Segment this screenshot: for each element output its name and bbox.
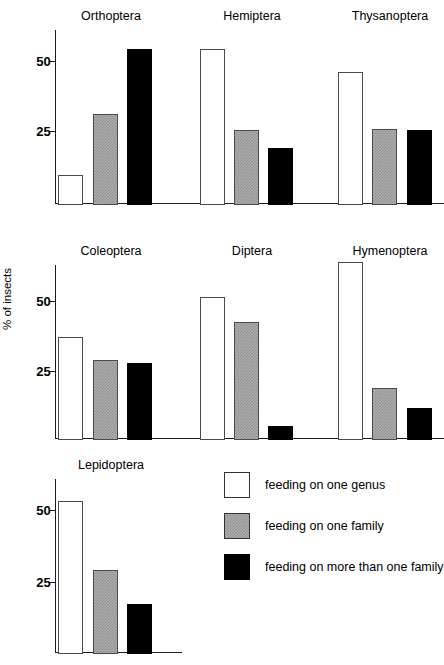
tick-label: 50 [36, 55, 51, 68]
legend-item-one-genus: feeding on one genus [224, 472, 385, 498]
group-title-coleoptera: Coleoptera [80, 245, 141, 258]
bar-hymenoptera-one-family [372, 388, 397, 440]
group-title-hemiptera: Hemiptera [223, 10, 281, 23]
bar-hemiptera-one-family [234, 130, 259, 205]
panel-row-2: 50 25 Coleoptera Diptera Hymenoptera [0, 235, 444, 445]
bar-lepidoptera-one-family [93, 570, 118, 654]
bar-coleoptera-one-genus [58, 337, 83, 440]
bar-thysanoptera-one-genus [338, 72, 363, 205]
bar-thysanoptera-more-than-one-family [407, 130, 432, 205]
bar-hymenoptera-one-genus [338, 262, 363, 440]
legend-label: feeding on one genus [265, 479, 385, 492]
group-title-thysanoptera: Thysanoptera [352, 10, 428, 23]
tick-label: 25 [36, 365, 51, 378]
insect-feeding-specificity-figure: % of insects 50 25 Orthoptera Hemiptera … [0, 0, 444, 665]
bar-hymenoptera-more-than-one-family [407, 408, 432, 440]
plot-area-row-2: 50 25 Coleoptera Diptera Hymenoptera [55, 265, 444, 440]
tick-label: 50 [36, 504, 51, 517]
legend-swatch-gray-icon [224, 513, 250, 539]
plot-area-row-1: 50 25 Orthoptera Hemiptera Thysanoptera [55, 30, 444, 205]
legend-swatch-black-icon [224, 554, 250, 580]
bar-orthoptera-one-genus [58, 175, 83, 205]
legend-item-one-family: feeding on one family [224, 513, 384, 539]
group-title-diptera: Diptera [232, 245, 272, 258]
bar-thysanoptera-one-family [372, 129, 397, 205]
bar-hemiptera-more-than-one-family [268, 148, 293, 205]
bar-lepidoptera-one-genus [58, 501, 83, 654]
bar-hemiptera-one-genus [200, 49, 225, 205]
bar-diptera-one-family [234, 322, 259, 440]
bar-orthoptera-one-family [93, 114, 118, 205]
group-title-orthoptera: Orthoptera [81, 10, 141, 23]
tick-label: 25 [36, 125, 51, 138]
tick-label: 50 [36, 295, 51, 308]
legend-swatch-white-icon [224, 472, 250, 498]
bar-orthoptera-more-than-one-family [127, 49, 152, 205]
bar-coleoptera-one-family [93, 360, 118, 440]
group-title-hymenoptera: Hymenoptera [352, 245, 427, 258]
tick-label: 25 [36, 576, 51, 589]
y-axis-line-row-1 [55, 30, 56, 203]
legend-item-more-than-one-family: feeding on more than one family [224, 554, 444, 580]
y-axis-line-row-2 [55, 265, 56, 438]
legend-label: feeding on one family [265, 520, 384, 533]
panel-row-1: 50 25 Orthoptera Hemiptera Thysanoptera [0, 0, 444, 210]
y-axis-line-row-3 [55, 479, 56, 652]
bar-coleoptera-more-than-one-family [127, 363, 152, 440]
bar-lepidoptera-more-than-one-family [127, 604, 152, 654]
group-title-lepidoptera: Lepidoptera [78, 459, 144, 472]
legend-label: feeding on more than one family [265, 561, 444, 574]
bar-diptera-one-genus [200, 297, 225, 440]
bar-diptera-more-than-one-family [268, 426, 293, 440]
